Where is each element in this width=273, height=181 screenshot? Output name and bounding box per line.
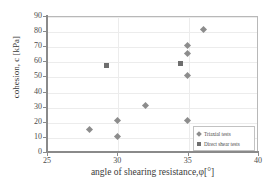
legend-item-triaxial: Triaxial tests: [197, 129, 251, 139]
gridline-horizontal: [48, 32, 257, 33]
x-tick-label: 30: [105, 157, 129, 165]
y-tick-mark: [43, 16, 46, 17]
chart-legend: Triaxial tests Direct shear tests: [193, 126, 255, 151]
y-tick-mark: [43, 31, 46, 32]
x-tick-label: 35: [176, 157, 200, 165]
x-tick-mark: [188, 153, 189, 156]
x-tick-mark: [258, 153, 259, 156]
y-axis-line: [46, 15, 48, 153]
diamond-marker-icon: [196, 131, 202, 137]
gridline-horizontal: [48, 17, 257, 18]
y-tick-mark: [43, 122, 46, 123]
x-axis-line: [46, 151, 259, 153]
y-tick-mark: [43, 152, 46, 153]
y-tick-mark: [43, 137, 46, 138]
gridline-horizontal: [48, 77, 257, 78]
y-tick-mark: [43, 107, 46, 108]
legend-item-label: Direct shear tests: [204, 141, 240, 147]
y-tick-mark: [43, 61, 46, 62]
legend-item-direct-shear: Direct shear tests: [197, 139, 251, 149]
gridline-horizontal: [48, 62, 257, 63]
y-tick-mark: [43, 92, 46, 93]
gridline-horizontal: [48, 108, 257, 109]
x-tick-mark: [47, 153, 48, 156]
square-marker-icon: [197, 142, 201, 146]
x-tick-label: 25: [35, 157, 59, 165]
x-tick-label: 40: [246, 157, 270, 165]
y-tick-mark: [43, 76, 46, 77]
gridline-horizontal: [48, 93, 257, 94]
y-axis-title: cohesion, c [kPa]: [11, 7, 21, 127]
data-point-square: [178, 61, 183, 66]
gridline-horizontal: [48, 123, 257, 124]
data-point-square: [104, 63, 109, 68]
gridline-vertical: [118, 17, 119, 151]
legend-item-label: Triaxial tests: [204, 131, 231, 137]
y-tick-label: 10: [12, 133, 42, 141]
y-tick-label: 0: [12, 148, 42, 156]
y-tick-mark: [43, 46, 46, 47]
x-tick-mark: [117, 153, 118, 156]
x-axis-title: angle of shearing resistance,φ[°]: [47, 167, 258, 177]
gridline-vertical: [189, 17, 190, 151]
gridline-horizontal: [48, 47, 257, 48]
scatter-chart-figure: 0102030405060708090 25303540 cohesion, c…: [0, 0, 273, 181]
